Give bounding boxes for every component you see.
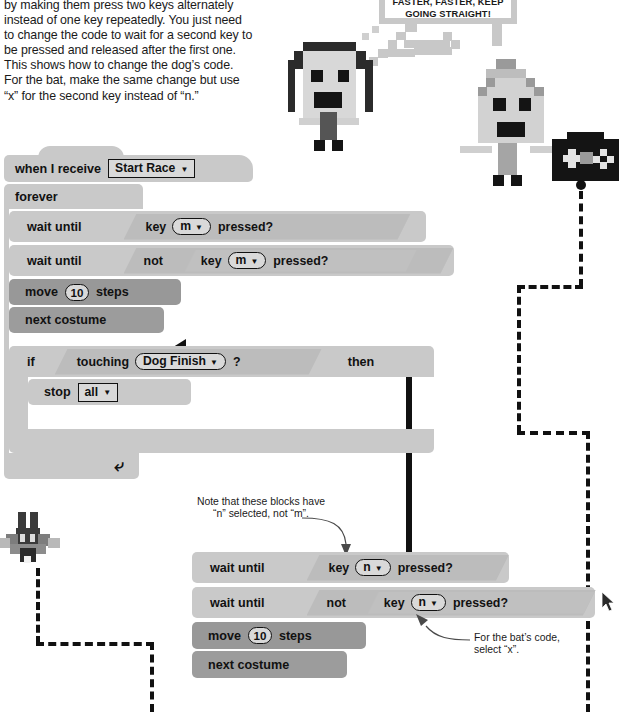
wait-until-label-2: wait until [27, 254, 82, 268]
key-label-3: key [329, 561, 350, 575]
stop-label: stop [44, 385, 71, 399]
chevron-down-icon: ▼ [430, 600, 438, 608]
key-pressed-reporter-1[interactable]: key m ▼ pressed? [124, 214, 411, 240]
chevron-down-icon: ▼ [210, 359, 218, 367]
block-move-steps-bat[interactable]: move 10 steps [192, 622, 366, 649]
touching-label: touching [77, 355, 129, 369]
key-pressed-reporter-2[interactable]: key m ▼ pressed? [185, 250, 417, 272]
move-value-input-bat[interactable]: 10 [248, 627, 272, 644]
block-wait-until-3[interactable]: wait until key n ▼ pressed? [192, 552, 509, 583]
bubble-tail-px3 [388, 40, 397, 49]
pressed-label-1: pressed? [218, 220, 273, 234]
key-label-1: key [146, 220, 167, 234]
block-next-costume-bat[interactable]: next costume [192, 651, 347, 678]
pressed-label-2: pressed? [273, 254, 328, 268]
intro-paragraph: by making them press two keys alternatel… [4, 0, 254, 104]
stop-dropdown-value: all [85, 385, 99, 400]
block-if-then[interactable]: if touching Dog Finish ▼ ? then [9, 346, 454, 453]
annotation-bat-x: For the bat’s code, select “x”. [474, 632, 584, 657]
block-stop-all[interactable]: stop all ▼ [28, 379, 191, 405]
wait-until-label-4: wait until [210, 596, 265, 610]
key-dropdown-value-1: m [180, 219, 191, 234]
chevron-down-icon: ▼ [250, 258, 258, 266]
wait-until-label-1: wait until [27, 220, 82, 234]
key-label-4: key [384, 596, 405, 610]
bubble-tail-px11 [492, 24, 502, 46]
key-pressed-reporter-3[interactable]: key n ▼ pressed? [307, 555, 509, 581]
question-mark-label: ? [233, 355, 241, 369]
loop-arrow-icon: ⤷ [114, 456, 124, 476]
speech-bubble-text: FASTER, FASTER, KEEP GOING STRAIGHT! [376, 0, 520, 20]
not-operator-1[interactable]: not key m ▼ pressed? [124, 248, 454, 274]
key-pressed-reporter-4[interactable]: key n ▼ pressed? [368, 592, 596, 614]
chevron-down-icon: ▼ [103, 389, 111, 397]
move-value-input[interactable]: 10 [65, 284, 89, 301]
bubble-tail-px1 [405, 24, 417, 32]
pressed-label-3: pressed? [398, 561, 453, 575]
chevron-down-icon: ▼ [195, 224, 203, 232]
stop-dropdown[interactable]: all ▼ [78, 383, 118, 402]
not-label-2: not [327, 596, 346, 610]
key-dropdown-2[interactable]: m ▼ [228, 252, 267, 269]
if-label: if [27, 355, 35, 369]
block-forever[interactable]: forever wait until key m ▼ p [4, 184, 454, 479]
key-dropdown-3[interactable]: n ▼ [355, 559, 390, 576]
next-costume-label: next costume [25, 313, 106, 327]
page-root: by making them press two keys alternatel… [0, 0, 619, 712]
move-label-bat: move [208, 629, 241, 643]
touching-reporter[interactable]: touching Dog Finish ▼ ? [55, 349, 322, 375]
forever-header[interactable]: forever [4, 184, 143, 209]
when-i-receive-label: when I receive [15, 162, 101, 176]
next-costume-label-bat: next costume [208, 658, 289, 672]
key-dropdown-1[interactable]: m ▼ [172, 218, 211, 235]
bubble-tail-px9 [414, 47, 452, 55]
bubble-tail-px2 [396, 32, 406, 40]
not-label-1: not [144, 254, 163, 268]
steps-label-bat: steps [279, 629, 312, 643]
if-header[interactable]: if touching Dog Finish ▼ ? then [9, 346, 434, 377]
connector-dot [576, 180, 586, 190]
bubble-tail-px7 [387, 49, 415, 57]
forever-label: forever [15, 190, 58, 204]
annotation-bat-x-text: For the bat’s code, select “x”. [474, 632, 560, 655]
block-wait-until-4[interactable]: wait until not key n ▼ pressed? [192, 587, 595, 618]
mouse-cursor-icon [601, 591, 616, 613]
touching-target-dropdown[interactable]: Dog Finish ▼ [135, 353, 226, 370]
bat-script: wait until key n ▼ pressed? wait until n… [192, 552, 595, 678]
key-dropdown-value-3: n [363, 560, 370, 575]
steps-label: steps [96, 285, 129, 299]
dog-script: when I receive Start Race ▼ forever wait… [4, 155, 454, 479]
chevron-down-icon: ▼ [180, 166, 188, 174]
bubble-tail-px10 [451, 40, 460, 49]
message-dropdown[interactable]: Start Race ▼ [108, 159, 195, 178]
key-dropdown-4[interactable]: n ▼ [411, 594, 446, 611]
pressed-label-4: pressed? [453, 596, 508, 610]
block-move-steps[interactable]: move 10 steps [9, 279, 181, 305]
annotation-bat-x-leader [404, 612, 474, 648]
chevron-down-icon: ▼ [375, 565, 383, 573]
block-when-i-receive[interactable]: when I receive Start Race ▼ [4, 155, 253, 182]
block-wait-until-2[interactable]: wait until not key m ▼ pressed? [9, 245, 454, 276]
key-dropdown-value-4: n [419, 595, 426, 610]
touching-target-value: Dog Finish [143, 354, 206, 369]
if-footer [9, 429, 434, 453]
if-left-arm [9, 377, 28, 429]
speech-line-1: FASTER, FASTER, KEEP [376, 0, 520, 9]
speech-line-2: GOING STRAIGHT! [376, 9, 520, 21]
key-label-2: key [201, 254, 222, 268]
key-dropdown-value-2: m [236, 253, 247, 268]
block-next-costume[interactable]: next costume [9, 307, 164, 333]
block-wait-until-1[interactable]: wait until key m ▼ pressed? [9, 211, 426, 242]
intro-text: by making them press two keys alternatel… [4, 0, 254, 104]
wait-until-label-3: wait until [210, 561, 265, 575]
message-dropdown-value: Start Race [115, 161, 175, 176]
hat-bump [38, 146, 124, 158]
then-label: then [348, 355, 375, 369]
forever-footer: ⤷ [4, 453, 139, 479]
move-label: move [25, 285, 58, 299]
